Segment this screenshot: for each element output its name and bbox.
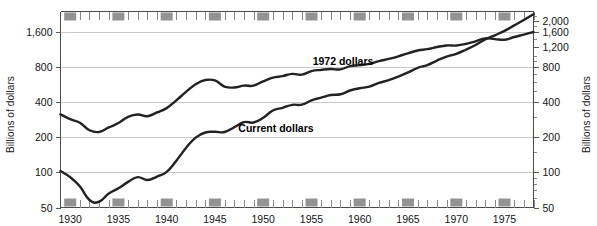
y-tick-label-right: 2,000	[543, 15, 569, 27]
y-tick-label-left: 800	[35, 61, 53, 73]
top-marker-box	[450, 13, 462, 21]
top-marker-box	[354, 13, 366, 21]
x-tick-label: 1960	[348, 213, 372, 225]
x-tick-label: 1935	[107, 213, 131, 225]
left-axis-title: Billions of dollars	[5, 76, 16, 153]
x-tick-label: 1945	[203, 213, 227, 225]
y-tick-label-left: 200	[35, 131, 53, 143]
chart-svg: Billions of dollars Billions of dollars …	[0, 0, 597, 226]
top-marker-box	[306, 13, 318, 21]
y-tick-label-right: 1,200	[543, 41, 569, 53]
top-marker-box	[499, 13, 511, 21]
y-tick-label-right: 100	[543, 166, 561, 178]
y-tick-label-right: 400	[543, 96, 561, 108]
bottom-marker-box	[450, 199, 462, 207]
y-tick-label-left: 100	[35, 166, 53, 178]
top-marker-box	[257, 13, 269, 21]
y-tick-label-right: 200	[543, 131, 561, 143]
gnp-log-chart: Billions of dollars Billions of dollars …	[0, 0, 597, 226]
x-tick-label: 1955	[300, 213, 324, 225]
x-tick-label: 1965	[396, 213, 420, 225]
left-axis-title-text: Billions of dollars	[5, 76, 16, 153]
top-marker-box	[402, 13, 414, 21]
top-marker-box	[161, 13, 173, 21]
y-tick-label-right: 50	[543, 202, 555, 214]
x-tick-label: 1930	[59, 213, 83, 225]
bottom-marker-box	[209, 199, 221, 207]
bottom-marker-box	[112, 199, 124, 207]
top-marker-box	[64, 13, 76, 21]
bottom-marker-box	[499, 199, 511, 207]
y-tick-label-right: 800	[543, 61, 561, 73]
series-label-1972: 1972 dollars	[313, 55, 374, 67]
bottom-marker-box	[354, 199, 366, 207]
y-tick-label-left: 1,600	[26, 26, 52, 38]
top-marker-box	[112, 13, 124, 21]
series-label-current: Current dollars	[238, 122, 313, 134]
x-tick-label: 1970	[445, 213, 469, 225]
bottom-marker-box	[306, 199, 318, 207]
bottom-marker-box	[257, 199, 269, 207]
bottom-marker-box	[64, 199, 76, 207]
y-tick-label-left: 400	[35, 96, 53, 108]
right-axis-title: Billions of dollars	[581, 76, 592, 153]
top-marker-box	[209, 13, 221, 21]
y-tick-label-left: 50	[41, 202, 53, 214]
x-tick-label: 1950	[252, 213, 276, 225]
x-tick-label: 1975	[493, 213, 517, 225]
right-axis-title-text: Billions of dollars	[581, 76, 592, 153]
bottom-marker-box	[161, 199, 173, 207]
chart-background	[0, 0, 597, 226]
y-tick-label-right: 1,600	[543, 26, 569, 38]
x-tick-label: 1940	[155, 213, 179, 225]
bottom-marker-box	[402, 199, 414, 207]
